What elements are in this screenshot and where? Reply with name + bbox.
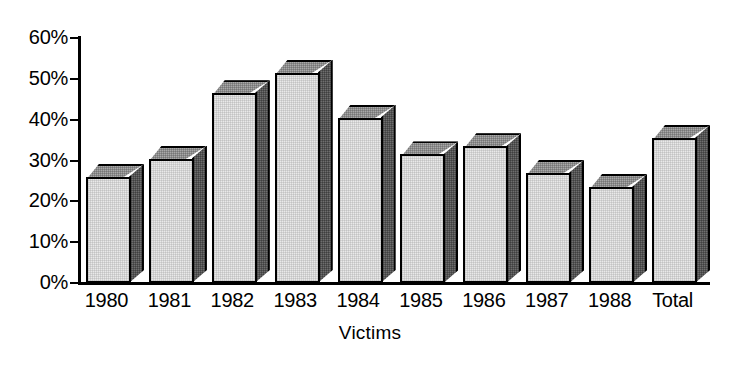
bar-column xyxy=(589,174,647,283)
y-axis-tick-label: 0% xyxy=(0,272,68,292)
x-axis-tick-label: 1986 xyxy=(452,288,515,312)
bar-side-face xyxy=(381,105,396,283)
y-axis-tick-label: 50% xyxy=(0,68,68,88)
bar-side-face xyxy=(318,60,333,283)
y-axis-tick xyxy=(70,119,79,121)
x-axis-tick-label: 1984 xyxy=(327,288,390,312)
bar-front-face xyxy=(589,187,634,283)
x-axis-tick-label: Total xyxy=(641,288,704,312)
bar-front-face xyxy=(149,159,194,284)
y-axis-tick-label-text: 40% xyxy=(2,109,68,129)
bar-front-face xyxy=(212,93,257,283)
x-axis-line xyxy=(78,282,710,285)
bar-chart: 0%10%20%30%40%50%60% 1980198119821983198… xyxy=(0,0,740,365)
y-axis-tick-label: 20% xyxy=(0,190,68,210)
y-axis-tick xyxy=(70,241,79,243)
bar-side-face xyxy=(129,164,144,283)
bar-column xyxy=(463,133,521,283)
y-axis-tick-label: 60% xyxy=(0,27,68,47)
bar-front-face xyxy=(526,173,571,283)
x-axis-tick-label: 1985 xyxy=(390,288,453,312)
x-axis-tick-label: 1988 xyxy=(578,288,641,312)
x-axis-tick-label: 1981 xyxy=(138,288,201,312)
x-axis-tick-label: 1983 xyxy=(264,288,327,312)
x-axis-tick-label: 1987 xyxy=(515,288,578,312)
bar-side-face xyxy=(506,133,521,283)
bar-side-face xyxy=(443,141,458,283)
x-axis-tick-label: 1982 xyxy=(201,288,264,312)
y-axis-tick-label-text: 30% xyxy=(2,150,68,170)
bar-front-face xyxy=(463,146,508,283)
bar-side-face xyxy=(569,160,584,283)
bar-front-face xyxy=(400,154,445,283)
bar-side-face xyxy=(695,125,710,283)
y-axis-tick xyxy=(70,160,79,162)
bar-column xyxy=(275,60,333,283)
y-axis-tick xyxy=(70,200,79,202)
y-axis-tick-label-text: 60% xyxy=(2,27,68,47)
bar-column xyxy=(338,105,396,283)
y-axis-tick xyxy=(70,37,79,39)
y-axis-tick-label-text: 50% xyxy=(2,68,68,88)
bar-front-face xyxy=(275,73,320,283)
bar-side-face xyxy=(632,174,647,283)
y-axis-tick-label: 40% xyxy=(0,109,68,129)
bar-column xyxy=(400,141,458,283)
bar-column xyxy=(212,80,270,283)
bar-side-face xyxy=(192,146,207,284)
x-axis-title: Victims xyxy=(0,322,740,344)
x-axis-tick-label: 1980 xyxy=(75,288,138,312)
y-axis-tick-label: 10% xyxy=(0,231,68,251)
bar-front-face xyxy=(652,138,697,283)
y-axis-tick-label: 30% xyxy=(0,150,68,170)
bar-front-face xyxy=(86,177,131,283)
y-axis-tick-label-text: 10% xyxy=(2,231,68,251)
y-axis-tick-label-text: 20% xyxy=(2,190,68,210)
bar-column xyxy=(526,160,584,283)
bar-side-face xyxy=(255,80,270,283)
bar-column xyxy=(86,164,144,283)
bar-column xyxy=(149,146,207,284)
bar-front-face xyxy=(338,118,383,283)
bar-column xyxy=(652,125,710,283)
y-axis-tick xyxy=(70,78,79,80)
y-axis-tick-label-text: 0% xyxy=(2,272,68,292)
